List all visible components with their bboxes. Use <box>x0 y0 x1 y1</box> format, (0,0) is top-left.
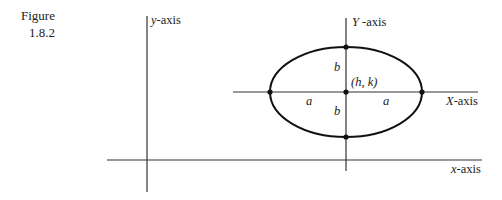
x-axis-label: x-axis <box>451 162 481 177</box>
Y-axis-label: Y -axis <box>352 15 386 30</box>
semi-major-left-label: a <box>306 94 312 109</box>
vertex-left-point <box>267 89 272 94</box>
semi-major-right-label: a <box>383 94 389 109</box>
covertex-top-point <box>343 44 348 49</box>
X-axis-label: X-axis <box>446 94 478 109</box>
center-point <box>343 89 348 94</box>
covertex-bottom-point <box>343 134 348 139</box>
semi-minor-bottom-label: b <box>334 104 340 119</box>
center-label: (h, k) <box>351 75 377 90</box>
vertex-right-point <box>419 89 424 94</box>
ellipse-diagram <box>0 0 502 200</box>
y-axis-label: y-axis <box>151 13 181 28</box>
semi-minor-top-label: b <box>334 60 340 75</box>
